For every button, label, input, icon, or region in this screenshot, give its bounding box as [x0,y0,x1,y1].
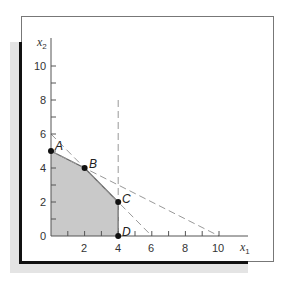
x-tick-label-4: 4 [115,242,121,254]
feasible-region [51,151,118,236]
y-tick-label-8: 8 [40,94,46,106]
y-tick-label-6: 6 [40,128,46,140]
point-d-label: D [122,225,131,239]
y-tick-label-0: 0 [40,230,46,242]
point-a-marker [48,148,54,154]
x-tick-label-10: 10 [212,242,224,254]
y-tick-label-4: 4 [40,162,46,174]
x-tick-label-6: 6 [148,242,154,254]
y-tick-label-10: 10 [34,60,46,72]
point-b-label: B [89,157,97,171]
point-c-label: C [122,192,131,206]
point-a-label: A [54,139,63,153]
x-tick-label-2: 2 [81,242,87,254]
x-tick-label-8: 8 [182,242,188,254]
y-tick-label-2: 2 [40,196,46,208]
point-d-marker [115,233,121,239]
y-axis-title: x2 [36,35,47,51]
x-axis-title: x1 [239,240,250,256]
point-b-marker [82,165,88,171]
lp-feasible-region-plot: 0 2 4 6 8 10 2 4 6 8 10 x2 x1 A B C D [0,0,287,282]
point-c-marker [115,199,121,205]
